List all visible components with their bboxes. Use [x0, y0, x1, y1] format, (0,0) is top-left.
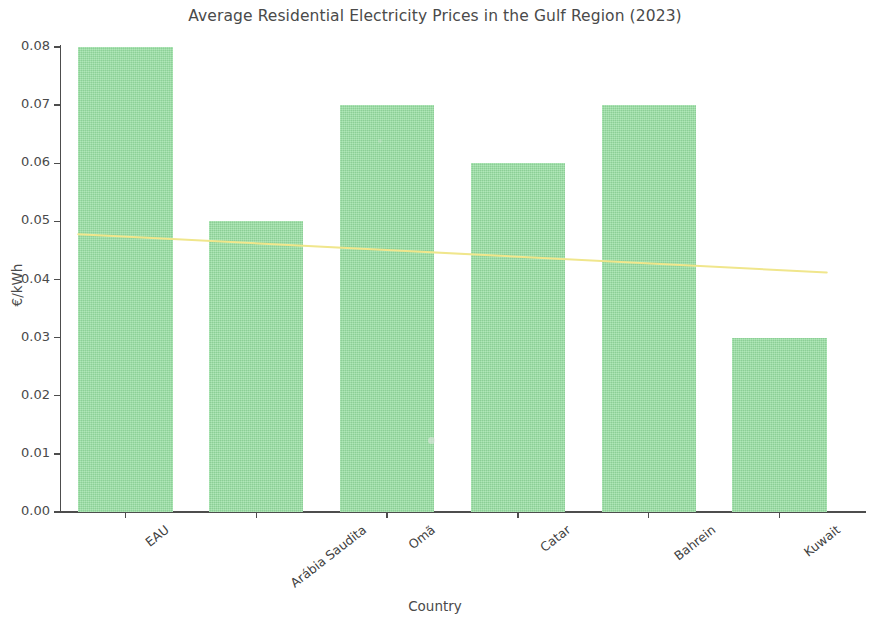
- bar: [732, 338, 826, 512]
- bar: [78, 47, 172, 512]
- bar: [471, 163, 565, 512]
- scan-artifact: [378, 139, 382, 143]
- y-tick-label: 0.00: [2, 503, 50, 518]
- x-tick-mark: [648, 512, 649, 518]
- y-tick-label: 0.05: [2, 212, 50, 227]
- x-tick-mark: [256, 512, 257, 518]
- y-tick-label: 0.03: [2, 329, 50, 344]
- chart-title: Average Residential Electricity Prices i…: [0, 7, 870, 25]
- x-tick-mark: [125, 512, 126, 518]
- x-tick-label: Bahrein: [671, 522, 718, 563]
- x-tick-mark: [779, 512, 780, 518]
- y-tick-label: 0.06: [2, 154, 50, 169]
- y-tick-label: 0.02: [2, 387, 50, 402]
- x-axis-title: Country: [0, 598, 870, 614]
- x-tick-label: Kuwait: [800, 522, 842, 560]
- scan-artifact: [428, 437, 435, 444]
- y-tick-label: 0.08: [2, 38, 50, 53]
- x-tick-label: EAU: [143, 522, 172, 550]
- x-tick-mark: [386, 512, 387, 518]
- bar: [602, 105, 696, 512]
- chart-figure: Average Residential Electricity Prices i…: [0, 0, 870, 624]
- y-tick-label: 0.01: [2, 445, 50, 460]
- trend-line: [60, 47, 845, 512]
- x-tick-label: Omã: [405, 522, 438, 552]
- x-tick-label: Catar: [537, 522, 573, 555]
- bar: [209, 221, 303, 512]
- bar: [340, 105, 434, 512]
- y-tick-label: 0.07: [2, 96, 50, 111]
- y-tick-label: 0.04: [2, 271, 50, 286]
- x-tick-mark: [517, 512, 518, 518]
- x-tick-label: Arábia Saudita: [288, 522, 370, 590]
- plot-area: [60, 47, 845, 512]
